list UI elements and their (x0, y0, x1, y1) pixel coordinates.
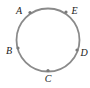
point-c-label: C (45, 73, 52, 84)
point-d-label: D (79, 47, 88, 58)
circle-diagram: AEBDC (0, 0, 90, 88)
point-b-label: B (6, 45, 12, 56)
point-e-marker (64, 10, 67, 13)
point-a-label: A (15, 5, 23, 16)
point-b-marker (16, 46, 19, 49)
point-e-label: E (70, 5, 77, 16)
points-layer: AEBDC (6, 5, 88, 84)
point-c-marker (46, 69, 49, 72)
circle (17, 9, 80, 72)
point-a-marker (28, 11, 31, 14)
point-d-marker (75, 48, 78, 51)
